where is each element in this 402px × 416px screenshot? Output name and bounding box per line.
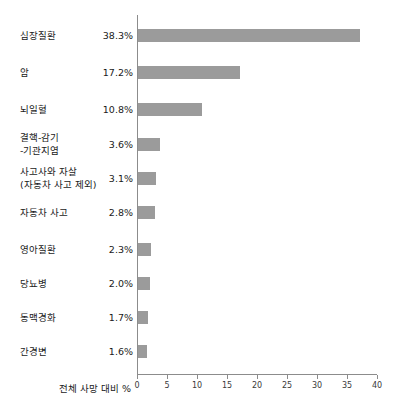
value-label: 10.8% — [88, 103, 133, 116]
x-tick-label: 30 — [312, 381, 322, 390]
bar — [138, 311, 148, 324]
value-label: 17.2% — [88, 66, 133, 79]
bar-row: 영아질환2.3% — [0, 243, 402, 256]
x-tick-mark — [317, 375, 318, 379]
x-tick-label: 25 — [282, 381, 292, 390]
x-tick-label: 20 — [252, 381, 262, 390]
x-tick-label: 10 — [192, 381, 202, 390]
value-label: 38.3% — [88, 29, 133, 42]
x-tick-mark — [377, 375, 378, 379]
x-tick-label: 15 — [222, 381, 232, 390]
value-label: 3.1% — [88, 172, 133, 185]
value-label: 2.3% — [88, 243, 133, 256]
x-axis-title: 전체 사망 대비 % — [59, 381, 131, 395]
bar — [138, 172, 156, 185]
x-tick-mark — [197, 375, 198, 379]
bar — [138, 29, 360, 42]
bar — [138, 206, 155, 219]
x-tick-label: 35 — [342, 381, 352, 390]
bar-row: 심장질환38.3% — [0, 29, 402, 42]
x-tick-label: 0 — [134, 381, 139, 390]
bar-row: 당뇨병2.0% — [0, 277, 402, 290]
x-tick-mark — [137, 375, 138, 379]
bar-chart: 심장질환38.3%암17.2%뇌일혈10.8%결핵-감기 -기관지염3.6%사고… — [0, 0, 402, 416]
x-tick-mark — [227, 375, 228, 379]
bar — [138, 243, 151, 256]
value-label: 2.0% — [88, 277, 133, 290]
x-tick-mark — [257, 375, 258, 379]
bar-row: 결핵-감기 -기관지염3.6% — [0, 138, 402, 151]
value-label: 1.6% — [88, 345, 133, 358]
bar-row: 뇌일혈10.8% — [0, 103, 402, 116]
x-tick-mark — [347, 375, 348, 379]
x-tick-label: 5 — [164, 381, 169, 390]
x-tick-mark — [167, 375, 168, 379]
x-tick-label: 40 — [372, 381, 382, 390]
bar-row: 사고사와 자살 (자동차 사고 제외)3.1% — [0, 172, 402, 185]
bar — [138, 103, 202, 116]
value-label: 2.8% — [88, 206, 133, 219]
bar-row: 자동차 사고2.8% — [0, 206, 402, 219]
bar-row: 간경변1.6% — [0, 345, 402, 358]
value-label: 1.7% — [88, 311, 133, 324]
x-tick-mark — [287, 375, 288, 379]
bar-row: 동맥경화1.7% — [0, 311, 402, 324]
value-label: 3.6% — [88, 138, 133, 151]
bar — [138, 277, 150, 290]
bar — [138, 66, 240, 79]
bar — [138, 345, 147, 358]
bar-row: 암17.2% — [0, 66, 402, 79]
bar — [138, 138, 160, 151]
